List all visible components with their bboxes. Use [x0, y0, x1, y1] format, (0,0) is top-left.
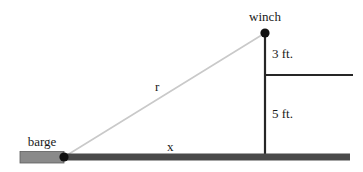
- winch-dot: [260, 28, 269, 37]
- winch-label: winch: [249, 10, 281, 23]
- horizontal-distance-label: x: [167, 140, 174, 153]
- rope-label: r: [155, 80, 159, 93]
- barge-label: barge: [28, 135, 57, 148]
- upper-height-label: 3 ft.: [272, 47, 293, 60]
- barge-body: [20, 152, 64, 164]
- barge-hinge-dot: [59, 152, 68, 161]
- lower-height-label: 5 ft.: [272, 107, 293, 120]
- rope-line: [64, 33, 265, 157]
- diagram-canvas: winch 3 ft. 5 ft. r x barge: [0, 0, 363, 172]
